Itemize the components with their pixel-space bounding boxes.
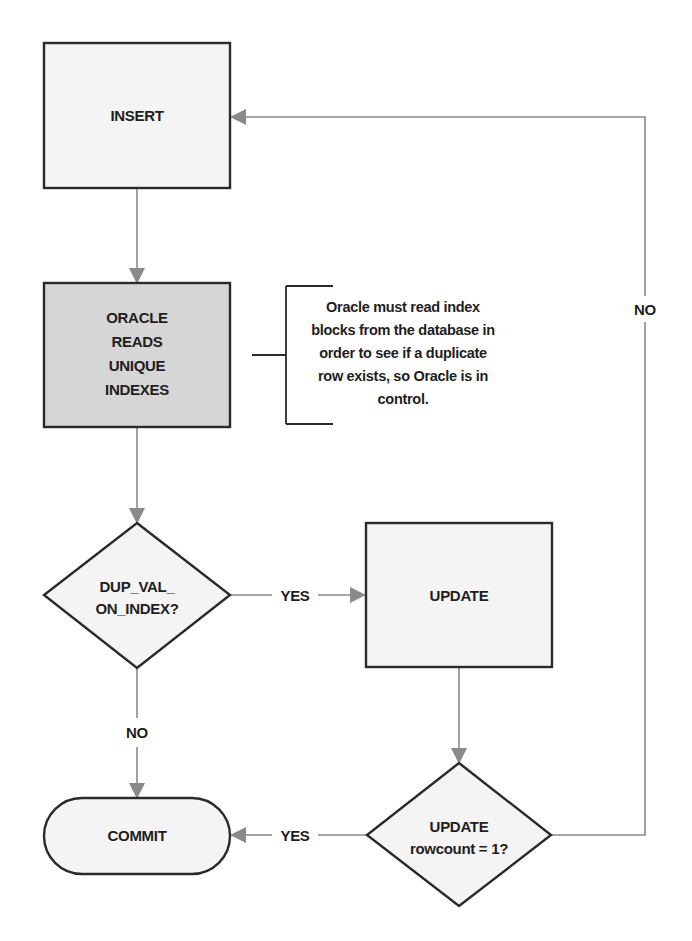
node-dup-val-label-line-2: ON_INDEX? — [95, 600, 178, 617]
arrow-left-icon — [230, 827, 246, 843]
node-update: UPDATE — [366, 523, 552, 667]
node-oracle-reads-label-line-4: INDEXES — [105, 381, 169, 398]
edge-label-no: NO — [126, 724, 149, 741]
node-oracle-reads-label-line-2: READS — [111, 333, 162, 350]
arrow-down-icon — [129, 783, 145, 799]
annotation-line-3: order to see if a duplicate — [319, 345, 487, 361]
annotation-line-4: row exists, so Oracle is in — [318, 368, 488, 384]
node-commit-label: COMMIT — [107, 827, 166, 844]
annotation-oracle-control: Oracle must read index blocks from the d… — [252, 286, 495, 424]
edge-insert-to-oracle-reads — [129, 188, 145, 284]
edge-dup-val-no-to-commit: NO — [126, 668, 149, 799]
edge-oracle-reads-to-dup-val-check — [129, 427, 145, 524]
node-oracle-reads-label-line-3: UNIQUE — [109, 357, 166, 374]
flowchart-diagram: YES NO YES NO INSERT ORACLE READS UNIQUE — [0, 0, 692, 941]
annotation-line-5: control. — [378, 391, 429, 407]
edge-rowcount-no-to-insert: NO — [230, 109, 657, 835]
arrow-right-icon — [350, 587, 366, 603]
node-dup-val-on-index-decision: DUP_VAL_ ON_INDEX? — [44, 523, 230, 668]
node-update-label: UPDATE — [430, 587, 489, 604]
annotation-line-2: blocks from the database in — [311, 322, 495, 338]
node-rowcount-decision: UPDATE rowcount = 1? — [367, 763, 551, 906]
arrow-left-icon — [230, 109, 246, 125]
arrow-down-icon — [129, 268, 145, 284]
edge-label-no: NO — [634, 301, 657, 318]
edge-update-to-rowcount-check — [451, 667, 467, 764]
node-oracle-reads-unique-indexes: ORACLE READS UNIQUE INDEXES — [44, 283, 230, 427]
node-dup-val-label-line-1: DUP_VAL_ — [100, 578, 176, 595]
edge-rowcount-yes-to-commit: YES — [230, 827, 367, 844]
node-rowcount-label-line-2: rowcount = 1? — [410, 840, 508, 857]
edge-label-yes: YES — [280, 587, 309, 604]
annotation-line-1: Oracle must read index — [326, 299, 480, 315]
node-insert-label: INSERT — [110, 107, 163, 124]
node-commit: COMMIT — [44, 798, 230, 874]
node-rowcount-label-line-1: UPDATE — [430, 818, 489, 835]
edge-dup-val-yes-to-update: YES — [230, 587, 366, 604]
node-oracle-reads-label-line-1: ORACLE — [106, 309, 168, 326]
node-insert: INSERT — [44, 43, 230, 188]
edge-label-yes: YES — [280, 827, 309, 844]
